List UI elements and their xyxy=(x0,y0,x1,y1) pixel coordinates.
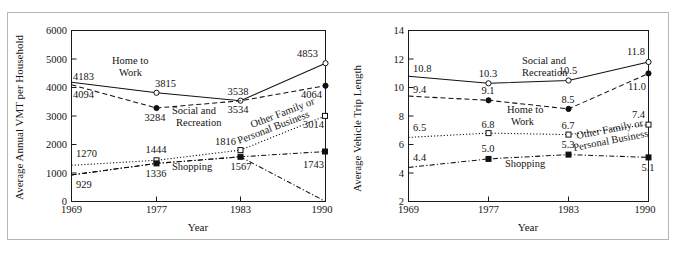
label-3284: 3284 xyxy=(145,112,167,123)
right-xtick-1977: 1977 xyxy=(478,204,499,215)
annotation-social-recreation-line2: Recreation xyxy=(522,67,568,78)
label-1444: 1444 xyxy=(146,144,168,155)
label-1270: 1270 xyxy=(76,148,97,159)
chart-left-annual-vmt: Average Annual VMT per Household 6000 50… xyxy=(0,0,340,254)
annotation-social-recreation-line2: Recreation xyxy=(176,117,222,128)
marker-open-square xyxy=(486,131,491,136)
marker-filled-square xyxy=(323,149,328,154)
label-11-8: 11.8 xyxy=(627,46,645,57)
right-xtick-1969: 1969 xyxy=(398,204,419,215)
label-3815: 3815 xyxy=(155,78,176,89)
label-4-4: 4.4 xyxy=(413,152,427,163)
label-6-8: 6.8 xyxy=(481,119,494,130)
right-x-axis-title: Year xyxy=(518,221,539,233)
left-y-axis-title: Average Annual VMT per Household xyxy=(13,35,25,200)
left-ytick-2000: 2000 xyxy=(46,139,67,150)
marker-open-circle xyxy=(154,90,159,95)
marker-filled-circle xyxy=(646,71,651,76)
annotation-home-to-work-line2: Work xyxy=(511,116,535,127)
annotation-home-to-work-line1: Home to xyxy=(112,55,148,66)
marker-filled-circle xyxy=(566,106,571,111)
marker-filled-square xyxy=(566,152,571,157)
label-6-5: 6.5 xyxy=(413,122,426,133)
left-series-home-to-work xyxy=(72,61,329,104)
label-4094: 4094 xyxy=(73,89,95,100)
left-y-tick-labels: 6000 5000 4000 3000 2000 1000 0 xyxy=(46,25,67,207)
left-xtick-1969: 1969 xyxy=(61,204,82,215)
right-y-axis-title: Average Vehicle Trip Length xyxy=(351,65,363,192)
marker-open-square xyxy=(323,113,328,118)
chart-right-trip-length: Average Vehicle Trip Length 14 12 10 8 6… xyxy=(337,0,677,254)
left-x-ticks xyxy=(72,197,326,202)
label-6-7: 6.7 xyxy=(561,120,574,131)
label-8-5: 8.5 xyxy=(561,94,574,105)
label-4853: 4853 xyxy=(297,48,318,59)
right-xtick-1990: 1990 xyxy=(635,204,656,215)
right-x-ticks xyxy=(409,197,649,202)
label-11-0: 11.0 xyxy=(628,81,646,92)
right-xtick-1983: 1983 xyxy=(558,204,579,215)
figure-container: Average Annual VMT per Household 6000 50… xyxy=(0,0,677,254)
label-1743: 1743 xyxy=(303,159,324,170)
right-ytick-14: 14 xyxy=(394,25,405,36)
label-10-3: 10.3 xyxy=(479,68,497,79)
label-3534: 3534 xyxy=(228,104,250,115)
left-xtick-1990: 1990 xyxy=(312,204,333,215)
right-y-ticks xyxy=(409,31,414,202)
left-ytick-1000: 1000 xyxy=(46,168,67,179)
annotation-social-recreation-line1: Social and xyxy=(522,55,567,66)
right-ytick-12: 12 xyxy=(394,54,405,65)
annotation-home-to-work-line2: Work xyxy=(119,67,143,78)
right-ytick-4: 4 xyxy=(399,168,405,179)
left-ytick-5000: 5000 xyxy=(46,54,67,65)
marker-filled-square xyxy=(646,155,651,160)
left-ytick-3000: 3000 xyxy=(46,111,67,122)
label-5-1: 5.1 xyxy=(641,162,654,173)
marker-filled-circle xyxy=(323,83,328,88)
right-y-tick-labels: 14 12 10 8 6 4 2 xyxy=(394,25,405,207)
label-3538: 3538 xyxy=(228,86,249,97)
left-x-tick-labels: 1969 1977 1983 1990 xyxy=(61,204,333,215)
annotation-shopping: Shopping xyxy=(172,161,213,172)
right-ytick-10: 10 xyxy=(394,82,405,93)
marker-open-square xyxy=(646,122,651,127)
annotation-shopping: Shopping xyxy=(505,158,546,169)
label-5-0: 5.0 xyxy=(481,143,494,154)
marker-filled-circle xyxy=(154,105,159,110)
marker-filled-square xyxy=(486,156,491,161)
marker-open-circle xyxy=(566,78,571,83)
left-ytick-6000: 6000 xyxy=(46,25,67,36)
left-y-ticks xyxy=(72,31,77,202)
marker-filled-square xyxy=(238,154,243,159)
annotation-home-to-work-line1: Home to xyxy=(507,104,543,115)
left-xtick-1977: 1977 xyxy=(146,204,167,215)
left-x-axis-title: Year xyxy=(188,221,209,233)
label-1567: 1567 xyxy=(231,161,252,172)
marker-open-circle xyxy=(646,59,651,64)
left-ytick-4000: 4000 xyxy=(46,82,67,93)
label-3014: 3014 xyxy=(303,119,325,130)
label-9-1: 9.1 xyxy=(481,85,494,96)
marker-open-square xyxy=(566,132,571,137)
left-series-shopping xyxy=(72,149,328,202)
marker-filled-square xyxy=(154,161,159,166)
label-929: 929 xyxy=(76,179,92,190)
marker-open-circle xyxy=(323,61,328,66)
annotation-social-recreation-line1: Social and xyxy=(172,105,217,116)
label-9-4: 9.4 xyxy=(413,84,427,95)
marker-open-square xyxy=(238,148,243,153)
marker-filled-circle xyxy=(486,98,491,103)
label-4183: 4183 xyxy=(73,71,94,82)
label-10-8: 10.8 xyxy=(413,63,431,74)
right-x-tick-labels: 1969 1977 1983 1990 xyxy=(398,204,656,215)
right-ytick-8: 8 xyxy=(399,111,404,122)
label-1816: 1816 xyxy=(215,136,236,147)
label-1336: 1336 xyxy=(146,168,167,179)
left-xtick-1983: 1983 xyxy=(230,204,251,215)
right-ytick-6: 6 xyxy=(399,139,404,150)
